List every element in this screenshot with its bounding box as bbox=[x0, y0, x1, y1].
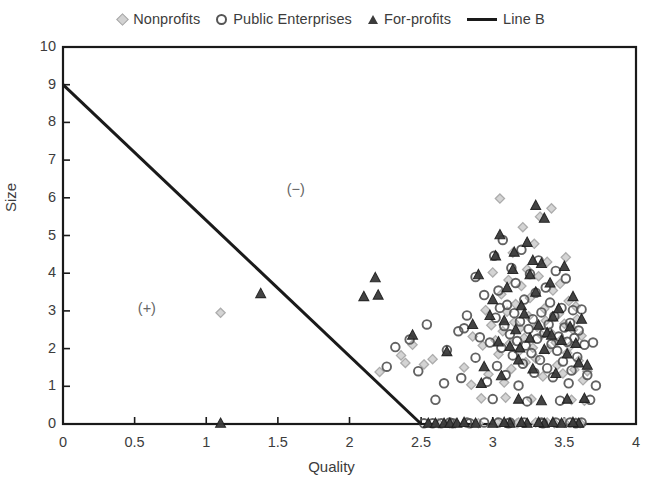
data-point-triangle bbox=[515, 343, 525, 352]
y-tick-label: 8 bbox=[18, 113, 56, 129]
chart-legend: NonprofitsPublic EnterprisesFor-profitsL… bbox=[0, 12, 663, 27]
legend-label: Nonprofits bbox=[133, 12, 200, 27]
y-tick-label: 0 bbox=[18, 415, 56, 431]
y-tick-label: 3 bbox=[18, 302, 56, 318]
data-point-diamond bbox=[561, 253, 570, 262]
data-point-triangle bbox=[579, 393, 589, 402]
diamond-marker-icon bbox=[116, 13, 129, 26]
triangle-marker-icon bbox=[368, 15, 378, 24]
data-point-triangle bbox=[473, 270, 483, 279]
data-point-circle bbox=[577, 305, 586, 314]
data-point-diamond bbox=[495, 194, 504, 203]
data-point-diamond bbox=[488, 268, 497, 277]
data-point-circle bbox=[543, 364, 552, 373]
x-tick-label: 3 bbox=[463, 434, 523, 450]
data-point-triangle bbox=[370, 273, 380, 282]
data-point-circle bbox=[382, 362, 391, 371]
data-point-circle bbox=[514, 381, 523, 390]
x-axis-title: Quality bbox=[0, 458, 663, 475]
data-point-circle bbox=[488, 395, 497, 404]
legend-item-for-profits[interactable]: For-profits bbox=[368, 12, 451, 27]
data-point-triangle bbox=[359, 291, 369, 300]
legend-label: Public Enterprises bbox=[233, 12, 352, 27]
series-nonprofits bbox=[216, 194, 592, 428]
legend-label: For-profits bbox=[384, 12, 451, 27]
data-point-circle bbox=[431, 396, 440, 405]
line-marker-icon bbox=[467, 18, 497, 21]
data-point-circle bbox=[493, 362, 502, 371]
x-tick-label: 0 bbox=[33, 434, 93, 450]
x-tick-label: 4 bbox=[606, 434, 663, 450]
x-tick-label: 3.5 bbox=[534, 434, 594, 450]
y-tick-label: 1 bbox=[18, 377, 56, 393]
data-point-diamond bbox=[460, 363, 469, 372]
data-point-triangle bbox=[256, 288, 266, 297]
data-point-triangle bbox=[373, 290, 383, 299]
plot-area bbox=[0, 0, 663, 483]
data-point-diamond bbox=[216, 308, 225, 317]
data-point-triangle bbox=[216, 418, 226, 427]
data-point-diamond bbox=[428, 355, 437, 364]
data-point-triangle bbox=[531, 200, 541, 209]
plot-border bbox=[63, 47, 636, 424]
data-point-triangle bbox=[568, 291, 578, 300]
y-axis-title: Size bbox=[2, 183, 19, 212]
data-point-triangle bbox=[559, 261, 569, 270]
data-point-circle bbox=[553, 347, 562, 356]
data-point-circle bbox=[589, 338, 598, 347]
data-point-circle bbox=[471, 353, 480, 362]
legend-item-nonprofits[interactable]: Nonprofits bbox=[118, 12, 200, 27]
reference-line-b bbox=[63, 85, 421, 424]
data-point-triangle bbox=[496, 371, 506, 380]
data-point-circle bbox=[391, 343, 400, 352]
data-point-diamond bbox=[467, 380, 476, 389]
y-tick-label: 4 bbox=[18, 264, 56, 280]
legend-label: Line B bbox=[503, 12, 545, 27]
data-point-diamond bbox=[555, 279, 564, 288]
data-point-triangle bbox=[476, 378, 486, 387]
data-point-triangle bbox=[479, 361, 489, 370]
data-point-circle bbox=[480, 291, 489, 300]
data-point-circle bbox=[546, 298, 555, 307]
plot-annotation: (−) bbox=[287, 181, 305, 197]
data-point-diamond bbox=[477, 394, 486, 403]
data-point-circle bbox=[562, 274, 571, 283]
data-point-circle bbox=[592, 381, 601, 390]
data-point-triangle bbox=[522, 237, 532, 246]
data-point-circle bbox=[564, 379, 573, 388]
data-point-triangle bbox=[582, 360, 592, 369]
plot-annotation: (+) bbox=[138, 300, 156, 316]
data-point-diamond bbox=[501, 393, 510, 402]
x-tick-label: 2 bbox=[320, 434, 380, 450]
data-point-triangle bbox=[514, 394, 524, 403]
circle-marker-icon bbox=[216, 14, 227, 25]
data-point-triangle bbox=[495, 230, 505, 239]
legend-item-public-enterprises[interactable]: Public Enterprises bbox=[216, 12, 352, 27]
y-tick-label: 2 bbox=[18, 340, 56, 356]
data-point-triangle bbox=[554, 303, 564, 312]
data-point-diamond bbox=[518, 223, 527, 232]
x-tick-label: 0.5 bbox=[105, 434, 165, 450]
data-point-circle bbox=[463, 311, 472, 320]
data-point-circle bbox=[457, 374, 466, 383]
data-point-circle bbox=[511, 279, 520, 288]
data-point-diamond bbox=[534, 272, 543, 281]
x-tick-label: 2.5 bbox=[391, 434, 451, 450]
y-tick-label: 10 bbox=[18, 38, 56, 54]
data-point-circle bbox=[414, 367, 423, 376]
x-tick-label: 1.5 bbox=[248, 434, 308, 450]
data-point-diamond bbox=[547, 204, 556, 213]
series-for-profits bbox=[216, 200, 593, 427]
x-tick-label: 1 bbox=[176, 434, 236, 450]
y-tick-label: 7 bbox=[18, 151, 56, 167]
data-point-triangle bbox=[537, 395, 547, 404]
scatter-chart-figure: NonprofitsPublic EnterprisesFor-profitsL… bbox=[0, 0, 663, 483]
y-tick-label: 9 bbox=[18, 76, 56, 92]
data-point-triangle bbox=[468, 319, 478, 328]
legend-item-line-b[interactable]: Line B bbox=[467, 12, 545, 27]
y-tick-label: 6 bbox=[18, 189, 56, 205]
data-point-circle bbox=[423, 320, 432, 329]
y-tick-label: 5 bbox=[18, 227, 56, 243]
data-point-circle bbox=[440, 379, 449, 388]
data-point-circle bbox=[524, 325, 533, 334]
